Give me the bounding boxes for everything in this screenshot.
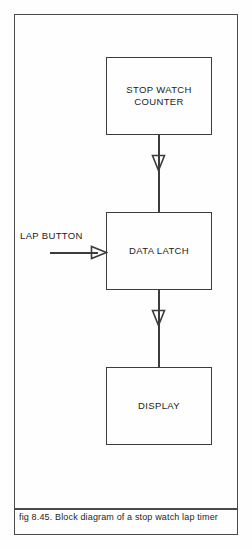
block-display: DISPLAY bbox=[106, 367, 212, 445]
arrowhead-right-icon bbox=[90, 245, 108, 260]
connector-line-latch-to-display bbox=[158, 290, 160, 367]
block-data-latch: DATA LATCH bbox=[106, 212, 212, 290]
connector-line-counter-to-latch bbox=[158, 135, 160, 212]
block-stop-watch-counter: STOP WATCH COUNTER bbox=[106, 57, 212, 135]
input-label-lap-button: LAP BUTTON bbox=[20, 230, 83, 241]
arrowhead-down-icon bbox=[151, 309, 166, 327]
block-label-data-latch: DATA LATCH bbox=[129, 245, 189, 258]
arrowhead-down-icon bbox=[151, 154, 166, 172]
figure-caption: fig 8.45. Block diagram of a stop watch … bbox=[19, 512, 235, 522]
figure-page: STOP WATCH COUNTER DATA LATCH DISPLAY LA… bbox=[0, 0, 252, 550]
block-label-stop-watch-counter: STOP WATCH COUNTER bbox=[126, 84, 191, 109]
caption-divider bbox=[14, 508, 238, 510]
block-label-display: DISPLAY bbox=[138, 400, 180, 413]
